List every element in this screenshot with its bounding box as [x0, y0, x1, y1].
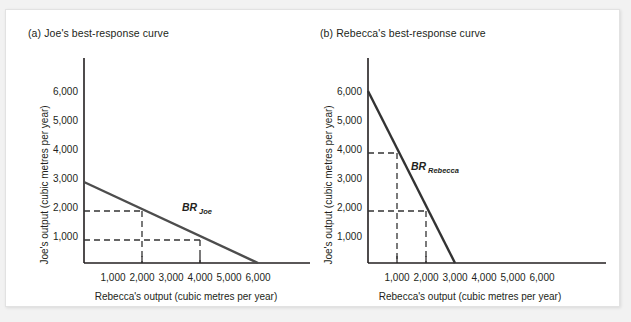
panel-b-ytick-2000: 2,000 — [337, 202, 362, 213]
panel-joe-best-response: (a) Joe's best-response curve Joe's outp… — [14, 10, 320, 306]
panel-a-ytick-1000: 1,000 — [53, 231, 78, 242]
panel-b-xtick-6000: 6,000 — [529, 272, 554, 283]
panel-a-xtick-6000: 6,000 — [245, 272, 270, 283]
figure-card: (a) Joe's best-response curve Joe's outp… — [5, 9, 620, 307]
panel-a-xtick-1000: 1,000 — [100, 272, 125, 283]
panel-b-y-axis-title: Joe's output (cubic metres per year) — [323, 105, 334, 264]
panel-b-ytick-6000: 6,000 — [337, 86, 362, 97]
panel-a-ytick-2000: 2,000 — [53, 202, 78, 213]
panel-a-ytick-4000: 4,000 — [53, 144, 78, 155]
panel-a-xtick-4000: 4,000 — [187, 272, 212, 283]
panel-a-y-axis-title: Joe's output (cubic metres per year) — [39, 105, 50, 264]
panel-b-curve-label-subscript: Rebecca — [428, 166, 459, 175]
panel-b-xtick-4000: 4,000 — [471, 272, 496, 283]
panel-b-ytick-1000: 1,000 — [337, 231, 362, 242]
panel-rebecca-best-response: (b) Rebecca's best-response curve Joe's … — [306, 10, 612, 306]
panel-b-xtick-5000: 5,000 — [500, 272, 525, 283]
figure-root: (a) Joe's best-response curve Joe's outp… — [0, 0, 631, 322]
panel-a-xtick-2000: 2,000 — [129, 272, 154, 283]
panel-a-br-joe-curve — [84, 182, 258, 263]
panel-a-ytick-3000: 3,000 — [53, 173, 78, 184]
panel-b-curve-label: BR — [411, 160, 427, 172]
panel-a-curve-label-subscript: Joe — [199, 207, 212, 216]
panel-b-plot: Joe's output (cubic metres per year) 6,0… — [306, 10, 612, 306]
panel-a-xtick-5000: 5,000 — [216, 272, 241, 283]
panel-a-xtick-3000: 3,000 — [158, 272, 183, 283]
panel-b-ytick-5000: 5,000 — [337, 115, 362, 126]
panel-a-plot: Joe's output (cubic metres per year) 6,0… — [14, 10, 320, 306]
panel-b-xtick-2000: 2,000 — [413, 272, 438, 283]
panel-b-ytick-3000: 3,000 — [337, 173, 362, 184]
panel-b-ytick-4000: 4,000 — [337, 144, 362, 155]
panel-b-x-axis-title: Rebecca's output (cubic metres per year) — [379, 291, 562, 302]
panel-b-xtick-1000: 1,000 — [384, 272, 409, 283]
panel-a-x-axis-title: Rebecca's output (cubic metres per year) — [95, 291, 278, 302]
panel-a-ytick-6000: 6,000 — [53, 86, 78, 97]
panel-b-xtick-3000: 3,000 — [442, 272, 467, 283]
panel-a-ytick-5000: 5,000 — [53, 115, 78, 126]
panel-b-br-rebecca-curve — [368, 91, 455, 263]
panel-a-curve-label: BR — [182, 201, 198, 213]
